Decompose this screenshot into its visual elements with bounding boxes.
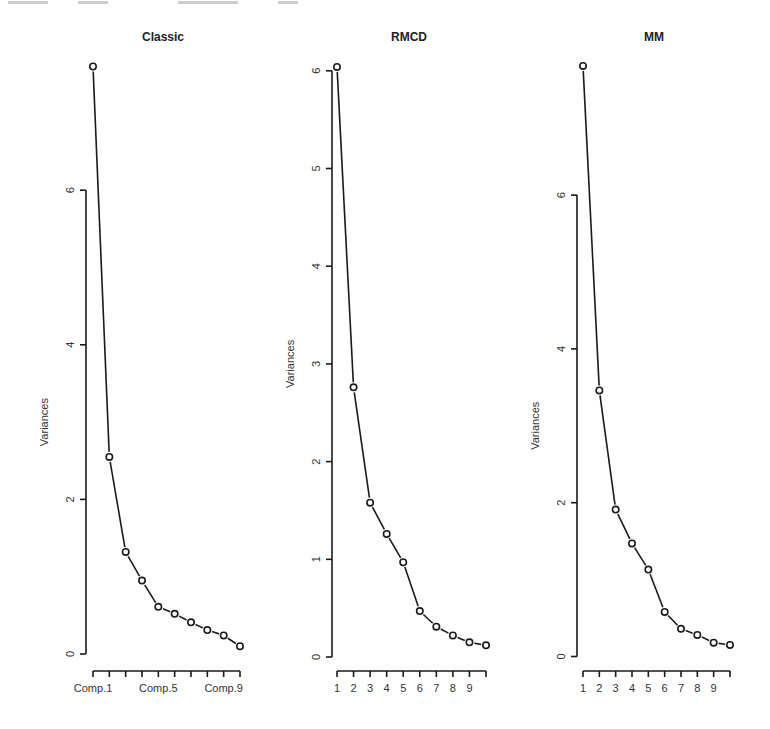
y-tick-label: 2 xyxy=(555,500,567,506)
x-tick-label: 7 xyxy=(678,682,684,694)
y-tick-label: 2 xyxy=(310,459,322,465)
x-tick-label: 1 xyxy=(334,682,340,694)
series-segment xyxy=(583,71,599,386)
y-tick-label: 4 xyxy=(310,263,322,269)
x-tick-label: Comp.9 xyxy=(204,682,243,694)
data-point xyxy=(661,609,667,615)
series-segment xyxy=(196,624,203,627)
series-segment xyxy=(128,556,139,576)
data-point xyxy=(466,639,472,645)
data-point xyxy=(171,611,177,617)
series-segment xyxy=(337,72,353,382)
y-tick-label: 4 xyxy=(64,342,76,348)
series-segment xyxy=(228,638,236,643)
y-axis: 0246 xyxy=(64,187,86,657)
y-axis: 0246 xyxy=(555,192,577,660)
series-segment xyxy=(702,637,709,640)
series-segment xyxy=(389,538,401,558)
y-tick-label: 6 xyxy=(555,192,567,198)
panel-title: MM xyxy=(644,30,664,44)
series-segment xyxy=(163,609,170,612)
x-axis: 123456789 xyxy=(580,671,730,694)
data-point xyxy=(612,506,618,512)
series-segment xyxy=(405,567,418,606)
series-segment xyxy=(635,548,646,566)
data-point xyxy=(204,627,210,633)
x-tick-label: 2 xyxy=(350,682,356,694)
variance-series xyxy=(90,63,243,649)
series-segment xyxy=(179,616,186,620)
data-point xyxy=(90,63,96,69)
data-point xyxy=(433,624,439,630)
series-segment xyxy=(145,585,156,603)
data-point xyxy=(122,549,128,555)
panel-mm: MM Variances 0246 123456789 xyxy=(529,30,733,694)
x-axis: Comp.1Comp.5Comp.9 xyxy=(74,671,243,694)
y-tick-label: 0 xyxy=(64,651,76,657)
series-segment xyxy=(686,631,693,634)
x-tick-label: 8 xyxy=(450,682,456,694)
variance-series xyxy=(580,63,733,648)
data-point xyxy=(383,531,389,537)
data-point xyxy=(678,626,684,632)
x-tick-label: 5 xyxy=(400,682,406,694)
x-tick-label: 1 xyxy=(580,682,586,694)
y-tick-label: 5 xyxy=(310,165,322,171)
data-point xyxy=(596,387,602,393)
y-axis-title: Variances xyxy=(284,339,296,388)
x-tick-label: 7 xyxy=(433,682,439,694)
variance-series xyxy=(334,64,489,649)
x-tick-label: Comp.5 xyxy=(139,682,178,694)
data-point xyxy=(334,64,340,70)
y-tick-label: 0 xyxy=(310,654,322,660)
data-point xyxy=(645,566,651,572)
x-tick-label: 9 xyxy=(466,682,472,694)
scree-plot-figure: Classic Variances 0246 Comp.1Comp.5Comp.… xyxy=(0,0,770,729)
x-tick-label: 4 xyxy=(384,682,390,694)
series-segment xyxy=(618,514,630,539)
y-axis-title: Variances xyxy=(529,401,541,450)
x-tick-label: 5 xyxy=(645,682,651,694)
panel-title: Classic xyxy=(142,30,184,44)
x-tick-label: 2 xyxy=(596,682,602,694)
panel-rmcd: RMCD Variances 0123456 123456789 xyxy=(284,30,489,694)
y-axis-title: Variances xyxy=(38,398,50,447)
y-tick-label: 6 xyxy=(64,187,76,193)
panel-title: RMCD xyxy=(391,30,427,44)
data-point xyxy=(139,577,145,583)
data-point xyxy=(220,632,226,638)
y-tick-label: 6 xyxy=(310,68,322,74)
data-point xyxy=(350,384,356,390)
series-segment xyxy=(650,574,663,607)
series-segment xyxy=(458,637,465,640)
series-segment xyxy=(354,392,369,497)
x-tick-label: 3 xyxy=(367,682,373,694)
x-tick-label: 3 xyxy=(613,682,619,694)
data-point xyxy=(188,619,194,625)
y-axis: 0123456 xyxy=(310,68,332,660)
data-point xyxy=(450,632,456,638)
x-axis: 123456789 xyxy=(334,671,486,694)
y-tick-label: 4 xyxy=(555,346,567,352)
series-segment xyxy=(668,615,677,625)
x-tick-label: 6 xyxy=(417,682,423,694)
data-point xyxy=(237,643,243,649)
y-tick-label: 3 xyxy=(310,361,322,367)
series-segment xyxy=(110,462,125,547)
series-segment xyxy=(423,615,432,624)
data-point xyxy=(155,604,161,610)
series-segment xyxy=(719,643,725,644)
data-point xyxy=(106,454,112,460)
data-point xyxy=(694,632,700,638)
series-segment xyxy=(441,629,449,633)
y-tick-label: 2 xyxy=(64,496,76,502)
data-point xyxy=(483,642,489,648)
data-point xyxy=(629,540,635,546)
series-segment xyxy=(93,72,109,452)
data-point xyxy=(580,63,586,69)
y-tick-label: 0 xyxy=(555,653,567,659)
series-segment xyxy=(474,643,481,644)
series-segment xyxy=(212,632,219,634)
data-point xyxy=(400,559,406,565)
data-point xyxy=(727,642,733,648)
